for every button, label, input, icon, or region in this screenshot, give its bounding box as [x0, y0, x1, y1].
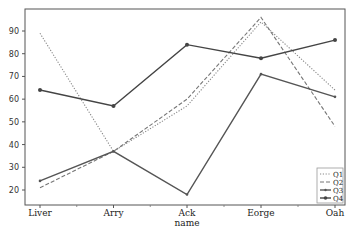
- data-point: [112, 104, 116, 108]
- data-point: [185, 43, 189, 47]
- y-tick-label: 90: [9, 27, 19, 36]
- legend-label-q2: Q2: [333, 179, 343, 187]
- x-axis: LiverArryAckEorgeOah: [28, 205, 344, 218]
- data-point: [260, 73, 263, 76]
- x-axis-title: name: [174, 218, 199, 228]
- x-tick-label: Eorge: [247, 208, 274, 218]
- data-point: [333, 38, 337, 42]
- legend-marker: [324, 189, 326, 191]
- data-point: [334, 96, 337, 99]
- plot-area: [25, 9, 345, 205]
- y-tick-label: 30: [9, 163, 19, 172]
- legend-marker: [324, 196, 328, 200]
- data-point: [112, 150, 115, 153]
- data-point: [259, 56, 263, 60]
- y-tick-label: 50: [9, 118, 19, 127]
- y-tick-label: 20: [9, 186, 19, 195]
- line-chart: 2030405060708090 LiverArryAckEorgeOah na…: [0, 0, 356, 231]
- legend-label-q4: Q4: [333, 195, 344, 203]
- x-tick-label: Oah: [326, 208, 345, 218]
- data-point: [38, 88, 42, 92]
- legend: Q1Q2Q3Q4: [317, 168, 344, 203]
- legend-label-q3: Q3: [333, 187, 343, 195]
- data-point: [39, 180, 42, 183]
- x-tick-label: Arry: [102, 208, 124, 218]
- x-tick-label: Liver: [28, 208, 52, 218]
- y-tick-label: 80: [9, 50, 19, 59]
- x-tick-label: Ack: [178, 208, 197, 218]
- y-axis: 2030405060708090: [9, 27, 25, 195]
- legend-label-q1: Q1: [333, 171, 343, 179]
- y-tick-label: 70: [9, 72, 19, 81]
- y-tick-label: 60: [9, 95, 19, 104]
- y-tick-label: 40: [9, 141, 19, 150]
- data-point: [186, 193, 189, 196]
